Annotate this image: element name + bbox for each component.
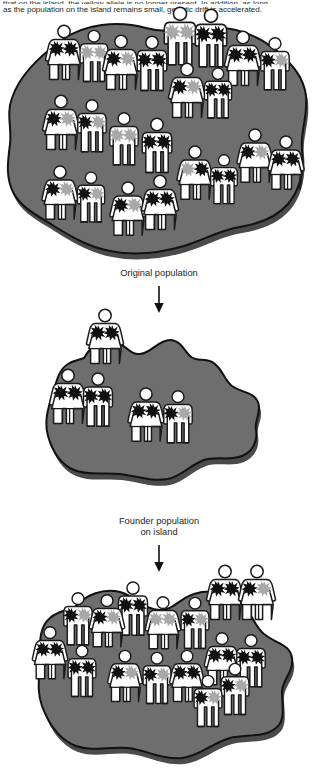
- original-population-scene: [0, 18, 318, 268]
- label-original-population: Original population: [0, 268, 318, 279]
- person-figure-female: [239, 565, 276, 619]
- panel-original-population: [0, 18, 318, 268]
- person-figure-male: [164, 7, 196, 65]
- founder-population-scene: [0, 322, 318, 494]
- label-founder-population-line2: on island: [0, 527, 318, 538]
- down-arrow-icon: [150, 286, 168, 314]
- down-arrow-icon: [150, 545, 168, 573]
- label-founder-population-line1: Founder population: [0, 516, 318, 527]
- caption-block: that on the island, the yellow allele is…: [3, 0, 315, 16]
- label-founder-population: Founder population on island: [0, 516, 318, 539]
- arrow-original-to-founder: [0, 286, 318, 314]
- expanded-island-population-scene: [0, 578, 318, 769]
- caption-line-1: that on the island, the yellow allele is…: [3, 0, 315, 4]
- panel-expanded-island-population: [0, 578, 318, 769]
- genetic-drift-founder-effect-figure: that on the island, the yellow allele is…: [0, 0, 318, 769]
- caption-line-2: as the population on the island remains …: [3, 4, 315, 16]
- arrow-founder-to-expanded: [0, 545, 318, 573]
- panel-founder-population: [0, 322, 318, 494]
- label-original-population-text: Original population: [0, 268, 318, 279]
- person-figure-male: [195, 9, 227, 67]
